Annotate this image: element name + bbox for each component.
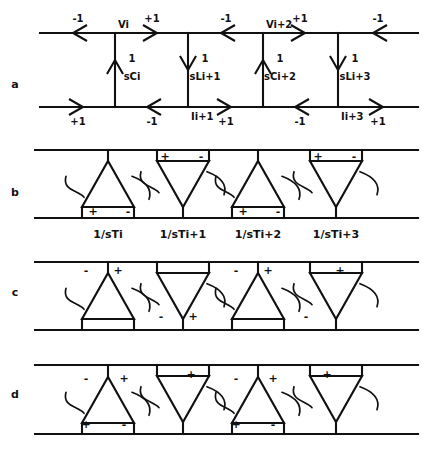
amplifier-triangle-2 [232,273,284,319]
amplifier-triangle-1 [157,273,209,319]
amplifier-arc-left-0 [65,288,84,309]
panel-a: a1sCi1sLi+11sCi+21sLi+3-1+1-1+1-1+1-1+1-… [11,13,418,127]
amplifier-0: -+ [65,262,150,330]
amplifier-arc-right-2 [282,392,300,415]
polarity-sign-2-3: - [271,418,276,431]
amplifier-1: -+ [140,262,225,330]
polarity-sign-0-3: - [122,418,127,431]
branch-numerator-0: 1 [129,53,136,64]
node-label-3: Ii+3 [341,111,364,122]
amplifier-2: -+ [215,262,300,330]
panel-label-b: b [11,186,19,199]
polarity-sign-1-1: + [188,310,197,323]
amplifier-triangle-0 [82,273,134,319]
integrator-label-3: 1/sTi+3 [313,228,359,241]
node-label-0: Vi [118,19,129,30]
amplifier-triangle-3 [310,273,362,319]
amplifier-arc-left-0 [65,176,84,197]
polarity-sign-2-0: + [238,205,247,218]
amplifier-arc-left-3 [293,284,312,305]
panel-b: b+-1/sTi+-1/sTi+1+-1/sTi+2+-1/sTi+3 [11,150,418,241]
branch-numerator-1: 1 [202,53,209,64]
branch-denominator-0: sCi [124,71,141,82]
amplifier-arc-left-0 [65,392,84,413]
bottom-gain-label-0: +1 [70,116,85,127]
amplifier-3: -+ [293,262,378,330]
branch-numerator-3: 1 [352,53,359,64]
polarity-sign-1-0: + [160,150,169,163]
polarity-sign-3-1: + [335,264,344,277]
polarity-sign-3-1: - [352,150,357,163]
panel-label-c: c [12,286,19,299]
bottom-gain-label-1: -1 [146,116,157,127]
top-gain-label-4: -1 [372,13,383,24]
polarity-sign-0-0: + [88,205,97,218]
branch-2: 1sCi+2 [255,33,296,107]
panel-d: d-++-+-++-+ [11,365,418,434]
amplifier-2: -++- [215,365,300,434]
polarity-sign-2-1: + [263,264,272,277]
polarity-sign-0-0: - [84,372,89,385]
polarity-sign-1-0: - [159,310,164,323]
amplifier-triangle-3 [310,376,362,422]
polarity-sign-0-1: + [119,372,128,385]
integrator-label-1: 1/sTi+1 [160,228,206,241]
branch-3: 1sLi+3 [330,33,371,107]
amplifier-1: +-1/sTi+1 [140,150,225,241]
amplifier-1: + [140,365,225,434]
bottom-gain-label-3: -1 [294,116,305,127]
amplifier-0: -++- [65,365,150,434]
integrator-label-2: 1/sTi+2 [235,228,281,241]
amplifier-arc-right-2 [282,176,300,199]
amplifier-arc-right-3 [360,172,378,195]
bottom-gain-label-2: +1 [218,116,233,127]
amplifier-arc-right-2 [282,288,300,311]
amplifier-triangle-3 [310,161,362,207]
polarity-sign-1-1: - [199,150,204,163]
panel-c: c-+-+-+-+ [12,262,418,330]
panel-label-a: a [11,78,18,91]
amplifier-arc-left-1 [140,387,159,408]
polarity-sign-0-1: + [113,264,122,277]
amplifier-0: +-1/sTi [65,150,150,241]
branch-0: 1sCi [107,33,140,107]
amplifier-arc-right-3 [360,387,378,410]
branch-numerator-2: 1 [277,53,284,64]
amplifier-2: +-1/sTi+2 [215,150,300,241]
figure-canvas: a1sCi1sLi+11sCi+21sLi+3-1+1-1+1-1+1-1+1-… [0,0,428,458]
polarity-sign-2-2: + [231,418,240,431]
circuit-diagram: a1sCi1sLi+11sCi+21sLi+3-1+1-1+1-1+1-1+1-… [0,0,428,458]
branch-denominator-1: sLi+1 [189,71,220,82]
amplifier-triangle-1 [157,376,209,422]
polarity-sign-0-0: - [84,264,89,277]
top-gain-label-1: +1 [144,13,159,24]
top-gain-label-2: -1 [220,13,231,24]
amplifier-triangle-0 [82,161,134,207]
top-gain-label-0: -1 [72,13,83,24]
polarity-sign-0-1: - [126,205,131,218]
amplifier-triangle-2 [232,161,284,207]
branch-denominator-3: sLi+3 [339,71,370,82]
polarity-sign-3-0: + [322,368,331,381]
polarity-sign-0-2: + [81,418,90,431]
branch-1: 1sLi+1 [180,33,221,107]
node-label-2: Ii+1 [191,111,214,122]
polarity-sign-3-0: - [304,310,309,323]
polarity-sign-2-1: - [276,205,281,218]
amplifier-triangle-1 [157,161,209,207]
top-gain-label-3: +1 [292,13,307,24]
node-label-1: Vi+2 [266,19,292,30]
bottom-gain-label-4: +1 [370,116,385,127]
amplifier-arc-right-3 [360,284,378,307]
amplifier-3: + [293,365,378,434]
polarity-sign-2-0: - [234,264,239,277]
amplifier-arc-left-3 [293,172,312,193]
amplifier-arc-left-3 [293,387,312,408]
polarity-sign-3-0: + [313,150,322,163]
branch-denominator-2: sCi+2 [264,71,296,82]
polarity-sign-2-1: + [268,372,277,385]
amplifier-3: +-1/sTi+3 [293,150,378,241]
panel-label-d: d [11,388,19,401]
polarity-sign-2-0: - [234,372,239,385]
polarity-sign-1-0: + [186,368,195,381]
